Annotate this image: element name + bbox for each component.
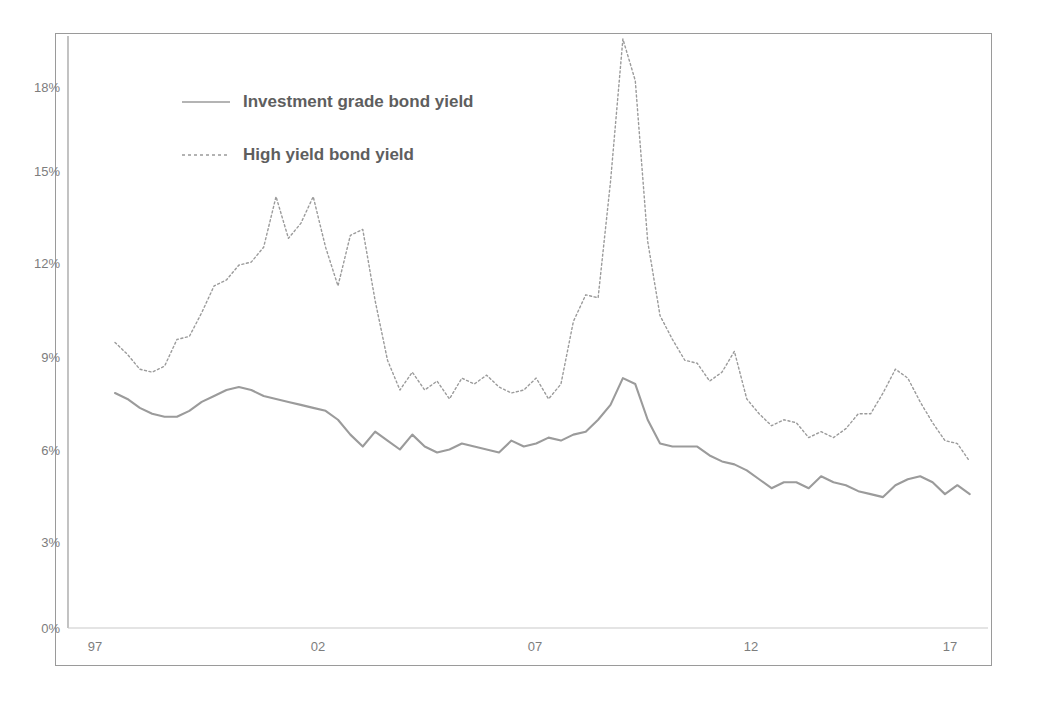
legend-label-investment-grade: Investment grade bond yield	[243, 92, 474, 112]
y-tick-label-15: 15%	[18, 164, 60, 179]
y-tick-label-12: 12%	[18, 256, 60, 271]
y-tick-label-0: 0%	[18, 621, 60, 636]
legend-label-high-yield: High yield bond yield	[243, 145, 414, 165]
chart-plot-area	[0, 0, 1044, 711]
x-tick-label-97: 97	[75, 639, 115, 654]
series-line-investment-grade	[115, 378, 970, 497]
y-tick-label-9: 9%	[18, 350, 60, 365]
x-tick-label-07: 07	[515, 639, 555, 654]
y-tick-label-18: 18%	[18, 80, 60, 95]
x-tick-label-17: 17	[930, 639, 970, 654]
chart-screenshot: 18% 15% 12% 9% 6% 3% 0% 97 02 07 12 17 I…	[0, 0, 1044, 711]
y-tick-label-6: 6%	[18, 443, 60, 458]
x-tick-label-12: 12	[731, 639, 771, 654]
y-tick-label-3: 3%	[18, 535, 60, 550]
x-tick-label-02: 02	[298, 639, 338, 654]
